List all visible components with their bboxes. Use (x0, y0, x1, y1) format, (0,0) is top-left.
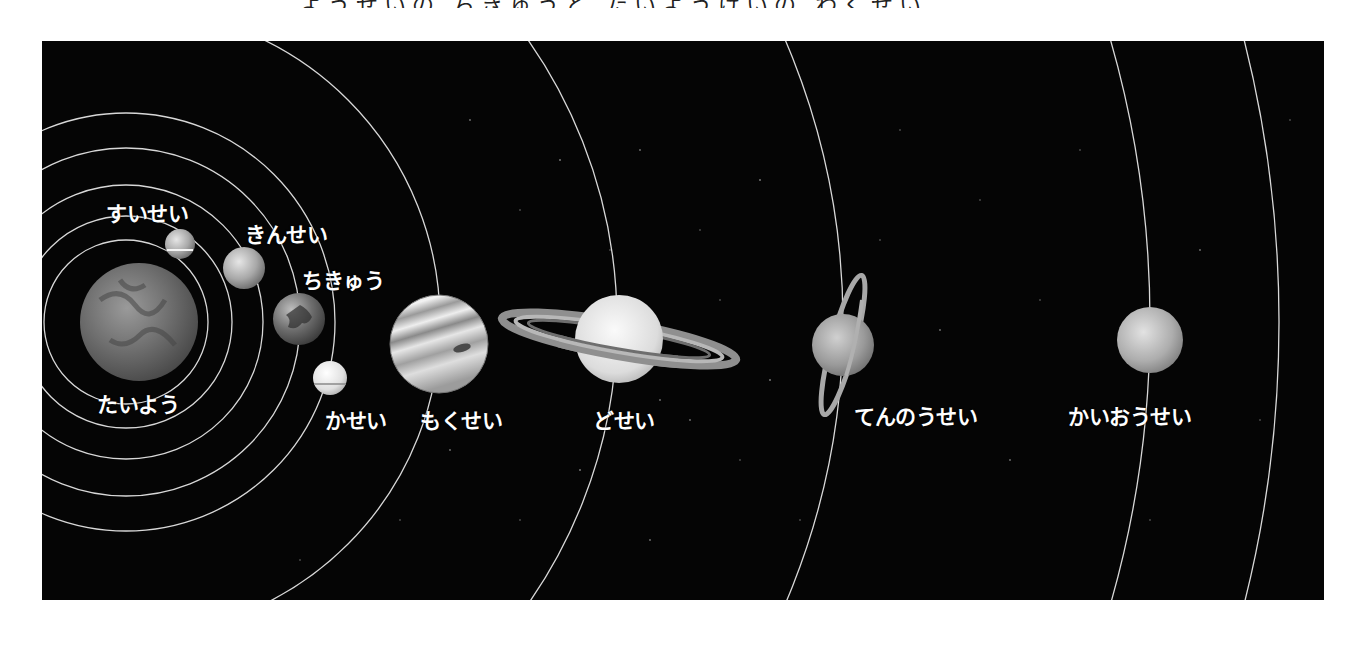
venus-icon (223, 247, 265, 289)
cropped-title-strip: ようせいの ちきゅうと たいようけいの わくせい (0, 0, 1366, 8)
label-sun: たいよう (97, 388, 179, 418)
mercury-icon (165, 229, 195, 259)
orbit-lines (42, 41, 1279, 600)
label-earth: ちきゅう (302, 264, 384, 294)
label-uranus: てんのうせい (854, 400, 977, 430)
diagram-canvas (42, 41, 1324, 600)
solar-system-diagram: すいせい きんせい ちきゅう たいよう かせい もくせい どせい てんのうせい … (42, 41, 1324, 600)
label-saturn: どせい (593, 404, 655, 434)
neptune-icon (1117, 307, 1183, 373)
sun-icon (80, 263, 198, 381)
label-venus: きんせい (245, 218, 327, 248)
label-jupiter: もくせい (420, 404, 502, 434)
mars-icon (313, 361, 347, 395)
label-mercury: すいせい (106, 197, 188, 227)
cropped-title: ようせいの ちきゅうと たいようけいの わくせい (300, 0, 927, 8)
label-mars: かせい (325, 404, 387, 434)
saturn-icon (499, 295, 739, 383)
jupiter-icon (390, 295, 488, 393)
label-neptune: かいおうせい (1068, 400, 1191, 430)
earth-icon (273, 293, 325, 345)
